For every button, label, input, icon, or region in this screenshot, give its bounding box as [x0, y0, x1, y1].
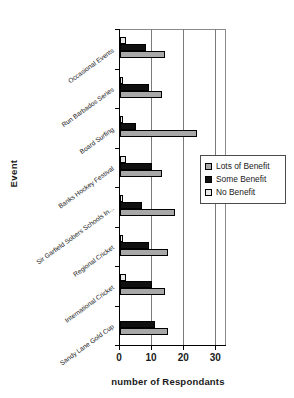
category-label-3: Banks Hockey Festival [14, 165, 115, 241]
bar-4-no-benefit [120, 195, 123, 202]
y-tick-end [115, 345, 119, 346]
bar-5-lots-of-benefit [120, 249, 168, 256]
bar-0-no-benefit [120, 37, 126, 44]
bar-0-lots-of-benefit [120, 51, 165, 58]
x-axis-title: number of Respondants [88, 376, 248, 387]
x-tick-label-20: 20 [168, 352, 198, 363]
legend-item-2[interactable]: No Benefit [205, 186, 281, 199]
legend-item-0[interactable]: Lots of Benefit [205, 160, 281, 173]
bar-3-some-benefit [120, 163, 152, 170]
bar-4-lots-of-benefit [120, 209, 175, 216]
plot-frame-top [119, 29, 226, 30]
x-tick-label-10: 10 [136, 352, 166, 363]
bar-3-lots-of-benefit [120, 170, 162, 177]
bar-7-some-benefit [120, 321, 155, 328]
legend-label-1: Some Benefit [216, 175, 266, 183]
gridline-10 [151, 29, 152, 345]
x-tick-10 [151, 345, 152, 350]
category-label-0: Occasional Events [14, 46, 115, 122]
x-tick-30 [215, 345, 216, 350]
bar-5-some-benefit [120, 242, 149, 249]
y-tick-0 [115, 29, 119, 30]
y-tick-1 [115, 69, 119, 70]
x-tick-label-30: 30 [200, 352, 230, 363]
legend-label-0: Lots of Benefit [216, 162, 270, 170]
category-label-1: Run Barbados Series [14, 86, 115, 162]
y-tick-5 [115, 227, 119, 228]
x-tick-20 [183, 345, 184, 350]
legend-swatch-icon-0 [205, 163, 212, 170]
bar-3-no-benefit [120, 156, 126, 163]
x-axis-line [119, 345, 226, 346]
category-label-4: Sir Garfield Sobers Schools In... [14, 204, 115, 280]
bar-2-some-benefit [120, 123, 136, 130]
bar-6-lots-of-benefit [120, 288, 165, 295]
bar-chart-figure: Event number of Respondants 0102030 Occa… [0, 0, 294, 398]
bar-1-no-benefit [120, 77, 123, 84]
legend-label-2: No Benefit [216, 188, 255, 196]
category-label-5: Regional Cricket [14, 244, 115, 320]
category-label-6: International Cricket [14, 283, 115, 359]
x-tick-label-0: 0 [104, 352, 134, 363]
bar-7-lots-of-benefit [120, 328, 168, 335]
chart-legend: Lots of BenefitSome BenefitNo Benefit [200, 155, 286, 204]
legend-swatch-icon-1 [205, 176, 212, 183]
y-tick-2 [115, 108, 119, 109]
legend-item-1[interactable]: Some Benefit [205, 173, 281, 186]
bar-0-some-benefit [120, 44, 146, 51]
category-label-2: Board Surfing [14, 125, 115, 201]
bar-1-lots-of-benefit [120, 91, 162, 98]
bar-2-no-benefit [120, 116, 123, 123]
y-tick-6 [115, 266, 119, 267]
bar-2-lots-of-benefit [120, 130, 197, 137]
y-tick-4 [115, 187, 119, 188]
bar-5-no-benefit [120, 235, 123, 242]
bar-1-some-benefit [120, 84, 149, 91]
y-tick-3 [115, 148, 119, 149]
bar-6-some-benefit [120, 281, 152, 288]
gridline-20 [183, 29, 184, 345]
bar-4-some-benefit [120, 202, 142, 209]
x-tick-0 [119, 345, 120, 350]
bar-6-no-benefit [120, 274, 126, 281]
legend-swatch-icon-2 [205, 189, 212, 196]
y-tick-7 [115, 306, 119, 307]
